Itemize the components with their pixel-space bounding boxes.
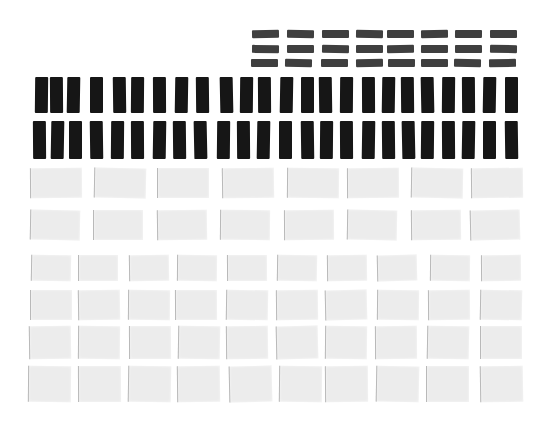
paper-tile — [325, 366, 368, 402]
paper-tile — [29, 326, 71, 360]
paper-tile — [327, 255, 367, 281]
blackbar-tile — [257, 121, 271, 159]
paper-tile — [471, 168, 523, 199]
blackbar-tile — [50, 77, 63, 113]
paper-tile — [428, 290, 470, 320]
paper-tile — [30, 290, 72, 320]
blackbar-tile — [131, 121, 144, 159]
paper-tile — [129, 326, 171, 359]
dashbar-tile — [252, 30, 279, 39]
blackbar-tile — [280, 77, 294, 113]
paper-tile — [287, 168, 339, 198]
blackbar-tile — [173, 121, 186, 159]
paper-tile — [177, 366, 220, 402]
blackbar-tile — [258, 77, 271, 113]
paper-tile — [426, 366, 469, 402]
blackbar-tile — [483, 121, 496, 159]
dashbar-tile — [322, 30, 349, 38]
paper-tile — [129, 255, 169, 282]
paper-tile — [325, 326, 367, 359]
blackbar-tile — [462, 77, 475, 113]
paper-tile — [375, 326, 417, 359]
dashbar-tile — [285, 59, 312, 67]
blackbar-tile — [33, 121, 46, 159]
paper-tile — [480, 366, 523, 403]
paper-tile — [325, 290, 368, 321]
blackbar-tile — [35, 77, 48, 113]
paper-tile — [377, 290, 419, 320]
paper-tile — [222, 168, 274, 199]
paper-tile — [30, 210, 81, 241]
paper-tile — [177, 255, 217, 281]
paper-tile — [377, 255, 418, 282]
blackbar-tile — [382, 121, 395, 159]
paper-tile — [128, 290, 170, 320]
paper-tile — [178, 326, 221, 360]
blackbar-tile — [442, 121, 455, 159]
blackbar-tile — [340, 77, 353, 113]
paper-tile — [94, 168, 147, 199]
blackbar-tile — [131, 77, 144, 113]
paper-tile — [28, 366, 71, 402]
paper-tile — [78, 290, 120, 321]
blackbar-tile — [442, 77, 455, 113]
paper-tile — [157, 168, 209, 198]
paper-tile — [128, 366, 172, 403]
blackbar-tile — [462, 121, 476, 159]
blackbar-tile — [402, 121, 416, 159]
blackbar-tile — [113, 77, 127, 113]
dashbar-tile — [322, 45, 349, 53]
paper-tile — [347, 210, 397, 241]
dashbar-tile — [421, 45, 448, 53]
paper-tile — [276, 290, 318, 320]
paper-tile — [276, 326, 319, 360]
paper-tile — [470, 209, 521, 240]
dashbar-tile — [388, 59, 415, 67]
dashbar-tile — [490, 30, 517, 38]
paper-tile — [93, 210, 143, 240]
blackbar-tile — [279, 121, 292, 159]
dashbar-tile — [489, 59, 516, 67]
blackbar-tile — [401, 77, 414, 113]
blackbar-tile — [69, 121, 82, 159]
blackbar-tile — [362, 121, 376, 159]
dashbar-tile — [356, 30, 383, 38]
paper-tile — [480, 290, 523, 321]
paper-tile — [427, 326, 470, 360]
blackbar-tile — [51, 121, 65, 159]
blackbar-tile — [340, 121, 353, 159]
blackbar-tile — [382, 77, 396, 113]
paper-tile — [347, 168, 399, 198]
paper-tile — [411, 210, 461, 241]
blackbar-tile — [505, 121, 519, 159]
blackbar-tile — [175, 77, 189, 113]
dashbar-tile — [321, 59, 348, 67]
blackbar-tile — [320, 121, 333, 159]
paper-tile — [430, 255, 470, 281]
paper-tile — [226, 326, 268, 359]
dashbar-tile — [387, 45, 414, 53]
paper-tile — [229, 366, 273, 403]
blackbar-tile — [67, 77, 81, 113]
dashbar-tile — [287, 30, 314, 38]
blackbar-tile — [240, 77, 253, 113]
dashbar-tile — [356, 59, 383, 67]
paper-tile — [480, 326, 522, 359]
blackbar-tile — [319, 77, 333, 113]
blackbar-tile — [301, 77, 314, 113]
paper-tile — [279, 366, 322, 402]
blackbar-tile — [505, 77, 518, 113]
paper-tile — [220, 210, 270, 240]
dashbar-tile — [252, 45, 279, 53]
paper-tile — [481, 255, 521, 281]
blackbar-tile — [421, 121, 434, 159]
dashbar-tile — [455, 30, 482, 38]
blackbar-tile — [237, 121, 250, 159]
dashbar-tile — [454, 59, 481, 67]
dashbar-tile — [287, 45, 314, 53]
dashbar-tile — [455, 45, 482, 53]
dashbar-tile — [421, 59, 448, 67]
paper-tile — [175, 290, 217, 320]
paper-tile — [78, 366, 121, 402]
paper-tile — [227, 255, 267, 281]
